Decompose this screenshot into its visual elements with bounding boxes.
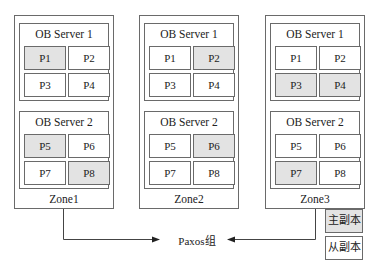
partition-p4: P4 bbox=[68, 73, 110, 97]
partition-p8: P8 bbox=[319, 161, 361, 185]
server-title: OB Server 1 bbox=[20, 28, 108, 40]
partition-p6: P6 bbox=[68, 134, 110, 158]
partition-p2-leader: P2 bbox=[193, 46, 235, 70]
zone-1-server-1: OB Server 1 P1 P2 P3 P4 bbox=[19, 23, 109, 101]
legend-leader: 主副本 bbox=[325, 209, 363, 233]
zone-2: OB Server 1 P1 P2 P3 P4 OB Server 2 P5 P… bbox=[139, 15, 239, 209]
zone-2-server-2: OB Server 2 P5 P6 P7 P8 bbox=[144, 111, 234, 189]
zone-3-server-2: OB Server 2 P5 P6 P7 P8 bbox=[270, 111, 360, 189]
server-title: OB Server 1 bbox=[145, 28, 233, 40]
partition-p6: P6 bbox=[319, 134, 361, 158]
partition-p4: P4 bbox=[193, 73, 235, 97]
zone-2-server-1: OB Server 1 P1 P2 P3 P4 bbox=[144, 23, 234, 101]
zone-3-server-1: OB Server 1 P1 P2 P3 P4 bbox=[270, 23, 360, 101]
partition-p3-leader: P3 bbox=[275, 73, 317, 97]
partition-p7: P7 bbox=[149, 161, 191, 185]
paxos-group-label: Paxos组 bbox=[172, 232, 222, 248]
zone3-connector-line bbox=[235, 209, 316, 240]
server-title: OB Server 2 bbox=[271, 116, 359, 128]
partition-p5: P5 bbox=[275, 134, 317, 158]
zone-1-server-2: OB Server 2 P5 P6 P7 P8 bbox=[19, 111, 109, 189]
zone-1: OB Server 1 P1 P2 P3 P4 OB Server 2 P5 P… bbox=[14, 15, 114, 209]
arrow-right-icon bbox=[152, 237, 160, 243]
zone-label: Zone3 bbox=[266, 193, 364, 205]
partition-p5-leader: P5 bbox=[24, 134, 66, 158]
arrow-left-icon bbox=[227, 237, 235, 243]
partition-p2: P2 bbox=[319, 46, 361, 70]
zone-label: Zone1 bbox=[15, 193, 113, 205]
partition-p1: P1 bbox=[275, 46, 317, 70]
partition-p6-leader: P6 bbox=[193, 134, 235, 158]
partition-p8-leader: P8 bbox=[68, 161, 110, 185]
partition-p1-leader: P1 bbox=[24, 46, 66, 70]
partition-p8: P8 bbox=[193, 161, 235, 185]
partition-p7-leader: P7 bbox=[275, 161, 317, 185]
partition-p5: P5 bbox=[149, 134, 191, 158]
legend-follower: 从副本 bbox=[325, 236, 363, 260]
server-title: OB Server 2 bbox=[145, 116, 233, 128]
partition-p1: P1 bbox=[149, 46, 191, 70]
zone-label: Zone2 bbox=[140, 193, 238, 205]
partition-p4-leader: P4 bbox=[319, 73, 361, 97]
partition-p7: P7 bbox=[24, 161, 66, 185]
server-title: OB Server 2 bbox=[20, 116, 108, 128]
zone1-connector-line bbox=[64, 209, 159, 240]
partition-p2: P2 bbox=[68, 46, 110, 70]
zone-3: OB Server 1 P1 P2 P3 P4 OB Server 2 P5 P… bbox=[265, 15, 365, 209]
server-title: OB Server 1 bbox=[271, 28, 359, 40]
partition-p3: P3 bbox=[149, 73, 191, 97]
partition-p3: P3 bbox=[24, 73, 66, 97]
